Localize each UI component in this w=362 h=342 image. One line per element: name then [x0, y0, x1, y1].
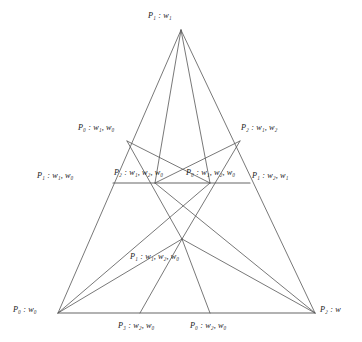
figure-canvas: P₁ : w₁ P₀ : w₁, w₀ P₂ : w₁, w₂ P₁ : w₁,…	[0, 0, 362, 342]
center-to-base-left	[140, 239, 182, 313]
center-to-base-right	[182, 239, 210, 313]
label-apex: P₁ : w₁	[148, 11, 172, 20]
apex-cevian-left	[155, 30, 181, 183]
label-bottom-mid-right: P₀ : w₂, w₀	[190, 321, 226, 330]
upper-left-to-center	[127, 141, 182, 239]
label-mid-right-outer: P₁ : w₂, w₁	[252, 171, 288, 180]
mid-right-node-to-bottom-left	[58, 183, 210, 313]
label-bottom-mid-left: P₃ : w₂, w₀	[118, 321, 154, 330]
center-to-bottom-right	[182, 239, 315, 313]
label-upper-right: P₂ : w₁, w₂	[241, 123, 277, 132]
label-mid-right-inner: P₀ : w₁, w₂, w₀	[186, 168, 235, 177]
apex-cevian-right	[181, 30, 210, 183]
label-center: P₁ : w₁, w₂, w₀	[130, 252, 179, 261]
center-to-bottom-left	[58, 239, 182, 313]
label-upper-left: P₀ : w₁, w₀	[78, 123, 114, 132]
label-mid-left-inner: P₂ : w₁, w₂, w₀	[114, 168, 163, 177]
label-mid-left-outer: P₁ : w₁, w₀	[37, 171, 73, 180]
mid-left-node-to-bottom-right	[155, 183, 315, 313]
label-bottom-left: P₀ : w₀	[13, 305, 37, 314]
label-bottom-right: P₂ : w	[320, 305, 341, 314]
